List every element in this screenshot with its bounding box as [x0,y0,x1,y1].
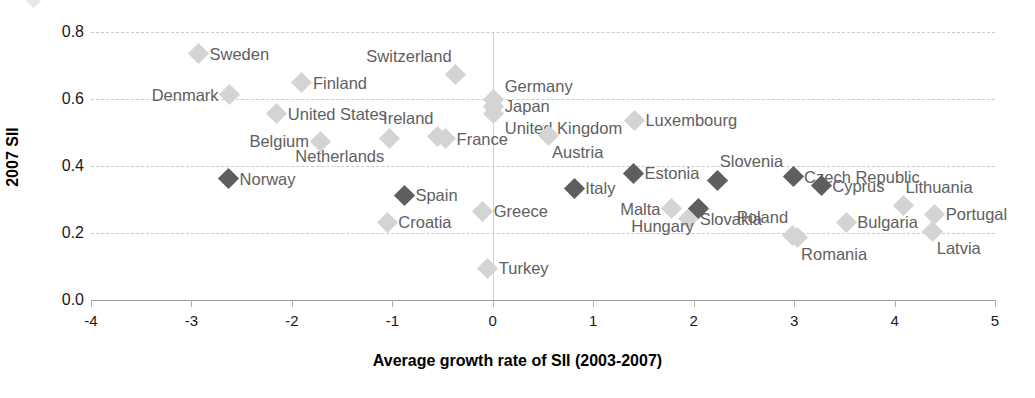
x-tick-mark [392,300,393,307]
data-point-marker[interactable] [266,103,287,124]
y-tick-label: 0.0 [62,291,84,309]
data-point-label: Malta [620,201,660,218]
data-point-label: Turkey [499,260,549,277]
x-tick-label: 1 [589,312,597,329]
data-point-label: Japan [505,98,550,115]
data-point-marker[interactable] [624,110,645,131]
x-axis-title: Average growth rate of SII (2003-2007) [0,352,1035,370]
data-point-marker[interactable] [477,258,498,279]
data-point-label: Norway [240,170,296,187]
data-point-label: Slovenia [720,153,783,170]
data-point-label: Italy [585,180,615,197]
data-point-label: Germany [505,77,573,94]
data-point-marker[interactable] [782,166,803,187]
data-point-label: Netherlands [295,148,384,165]
vertical-zero-line [493,32,494,300]
y-tick-label: 0.8 [62,23,84,41]
data-point-label: Portugal [946,206,1007,223]
data-point-marker[interactable] [377,212,398,233]
x-tick-mark [292,300,293,307]
data-point-label: Luxembourg [645,112,737,129]
data-point-label: Croatia [398,214,451,231]
data-point-marker[interactable] [472,201,493,222]
data-point-label: United States [288,105,387,122]
x-tick-label: -2 [285,312,298,329]
data-point-label: Estonia [644,165,699,182]
data-point-marker[interactable] [924,204,945,225]
data-point-label: Finland [313,75,367,92]
data-point-label: Sweden [209,46,269,63]
data-point-label: Greece [494,203,548,220]
y-tick-label: 0.4 [62,157,84,175]
x-tick-label: 2 [689,312,697,329]
data-point-marker[interactable] [291,72,312,93]
plot-area: SwedenDenmarkFinlandSwitzerlandGermanyJa… [91,32,995,300]
data-point-marker[interactable] [188,43,209,64]
data-point-label: Austria [552,144,603,161]
x-tick-label: 0 [489,312,497,329]
x-tick-label: 5 [991,312,999,329]
data-point-label: United Kingdom [505,120,622,137]
x-tick-label: 4 [890,312,898,329]
y-tick-label: 0.2 [62,224,84,242]
data-point-label: Hungary [631,217,693,234]
data-point-label: Poland [737,208,788,225]
y-axis-tick-labels: 0.00.20.40.60.8 [0,0,84,398]
gridline-y-1 [91,233,995,234]
data-point-label: Cyprus [832,178,884,195]
x-tick-label: -4 [84,312,97,329]
x-tick-mark [694,300,695,307]
scatter-chart: 2007 SII 0.00.20.40.60.8 SwedenDenmarkFi… [0,0,1035,398]
x-tick-label: -1 [386,312,399,329]
data-point-marker[interactable] [394,185,415,206]
x-tick-mark [895,300,896,307]
x-tick-label: -3 [185,312,198,329]
data-point-label: Switzerland [366,48,451,65]
data-point-label: Bulgaria [857,214,918,231]
data-point-marker[interactable] [219,84,240,105]
x-tick-mark [493,300,494,307]
data-point-label: Latvia [937,240,981,257]
data-point-marker[interactable] [836,212,857,233]
x-tick-mark [794,300,795,307]
x-tick-mark [191,300,192,307]
x-axis-line [91,300,996,301]
data-point-marker[interactable] [218,168,239,189]
data-point-label: France [457,130,508,147]
x-tick-label: 3 [790,312,798,329]
x-tick-mark [995,300,996,307]
y-tick-label: 0.6 [62,90,84,108]
data-point-label: Denmark [152,87,219,104]
x-tick-mark [91,300,92,307]
data-point-label: Spain [415,187,457,204]
data-point-marker[interactable] [707,170,728,191]
data-point-marker[interactable] [564,178,585,199]
x-tick-mark [593,300,594,307]
data-point-marker[interactable] [445,64,466,85]
gridline-y-4 [91,32,995,33]
data-point-label: Ireland [383,110,433,127]
data-point-label: Romania [801,246,867,263]
